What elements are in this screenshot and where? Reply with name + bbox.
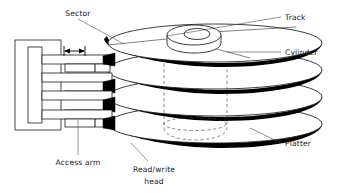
label-sector: Sector <box>65 9 91 18</box>
bidirectional-arrow-icon <box>64 46 85 56</box>
diagram-canvas: Sector Track Cylinder Platter Access arm… <box>0 0 337 193</box>
arrow-head-left <box>64 48 70 53</box>
leader-sector <box>78 19 124 44</box>
spindle-hub <box>167 25 221 53</box>
disk-drive-diagram: Sector Track Cylinder Platter Access arm… <box>0 0 337 193</box>
access-arm-3-shaft <box>42 91 112 100</box>
label-read-write-head-line2: head <box>144 177 164 186</box>
label-platter: Platter <box>285 139 312 148</box>
access-arm-1-slider <box>65 64 110 72</box>
access-arm-4-shaft <box>42 110 112 119</box>
label-cylinder: Cylinder <box>285 48 318 57</box>
label-track: Track <box>284 13 306 22</box>
access-arm-2-shaft <box>42 73 112 82</box>
actuator-inner-block <box>28 47 42 123</box>
leader-read-write-head <box>131 143 148 161</box>
arrow-head-right <box>79 48 85 53</box>
label-read-write-head-line1: Read/write <box>133 165 175 174</box>
hub-spindle-hole <box>184 29 210 40</box>
label-access-arm: Access arm <box>56 158 101 167</box>
access-arm-1-shaft <box>42 55 112 64</box>
